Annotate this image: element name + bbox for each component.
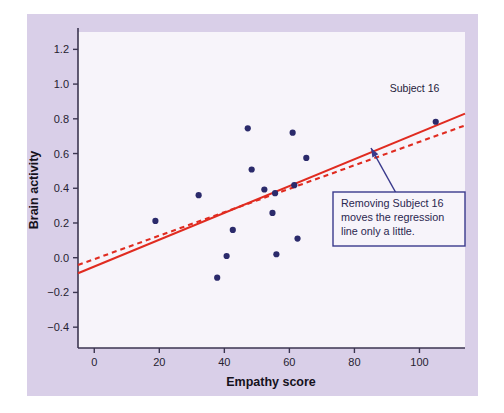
data-point [294,236,300,242]
x-tick-label: 100 [410,356,428,368]
data-point [230,227,236,233]
data-point [269,210,275,216]
x-tick-label: 0 [91,356,97,368]
scatter-chart: 1.21.00.80.60.40.20.0−0.2−0.4 0204060801… [0,0,504,413]
x-tick-label: 40 [218,356,230,368]
figure-root: 1.21.00.80.60.40.20.0−0.2−0.4 0204060801… [0,0,504,413]
data-point [303,155,309,161]
data-point [433,119,439,125]
y-tick-label: −0.4 [47,321,69,333]
data-point [196,192,202,198]
data-point [291,182,297,188]
y-axis-title: Brain activity [27,151,41,230]
chart-annotations: Subject 16 [390,82,440,94]
y-axis-ticks: 1.21.00.80.60.40.20.0−0.2−0.4 [47,43,78,333]
y-tick-label: 0.4 [54,182,69,194]
data-point [272,190,278,196]
data-point [273,251,279,257]
data-point [152,218,158,224]
x-axis-ticks: 020406080100 [91,348,428,368]
y-tick-label: 0.6 [54,148,69,160]
data-point [214,275,220,281]
y-tick-label: 0.2 [54,217,69,229]
y-tick-label: −0.2 [47,286,69,298]
y-tick-label: 0.0 [54,252,69,264]
data-point [290,130,296,136]
callout-line-3: line only a little. [341,225,415,237]
data-point [224,253,230,259]
data-point [249,166,255,172]
data-point [261,186,267,192]
plot-area-background [78,32,465,348]
callout-box: Removing Subject 16 moves the regression… [333,192,465,246]
x-axis-title: Empathy score [226,375,316,389]
callout-line-1: Removing Subject 16 [341,197,444,209]
chart-container: 1.21.00.80.60.40.20.0−0.2−0.4 0204060801… [0,0,504,413]
callout-line-2: moves the regression [341,211,444,223]
y-tick-label: 1.0 [54,78,69,90]
x-tick-label: 20 [153,356,165,368]
x-tick-label: 80 [348,356,360,368]
data-point [245,125,251,131]
y-tick-label: 0.8 [54,113,69,125]
x-tick-label: 60 [283,356,295,368]
y-tick-label: 1.2 [54,43,69,55]
subject-16-label: Subject 16 [390,82,440,94]
